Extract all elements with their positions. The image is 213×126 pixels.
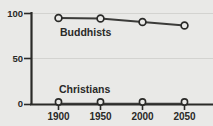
x-axis-tick-label-2000: 2000 xyxy=(124,112,161,122)
data-point-buddhists-1900 xyxy=(55,15,62,22)
x-axis-tick-label-1950: 1950 xyxy=(82,112,119,122)
y-axis-tick-label-50: 50 xyxy=(1,54,23,64)
series-label-christians: Christians xyxy=(59,84,110,95)
series-label-buddhists: Buddhists xyxy=(60,27,111,38)
data-point-christians-1900 xyxy=(55,99,61,105)
data-point-christians-2050 xyxy=(181,99,187,105)
data-point-buddhists-1950 xyxy=(97,15,104,22)
data-point-christians-1950 xyxy=(97,99,103,105)
chart-plot-area xyxy=(0,0,213,126)
y-axis-tick-label-100: 100 xyxy=(1,9,23,19)
x-axis-tick-label-1900: 1900 xyxy=(40,112,77,122)
data-point-buddhists-2050 xyxy=(181,22,188,29)
y-axis-tick-label-0: 0 xyxy=(1,99,23,109)
data-point-buddhists-2000 xyxy=(139,19,146,26)
x-axis-tick-label-2050: 2050 xyxy=(166,112,203,122)
chart-figure: 100 50 0 1900 1950 2000 2050 Buddhists C… xyxy=(0,0,213,126)
data-point-christians-2000 xyxy=(139,99,145,105)
